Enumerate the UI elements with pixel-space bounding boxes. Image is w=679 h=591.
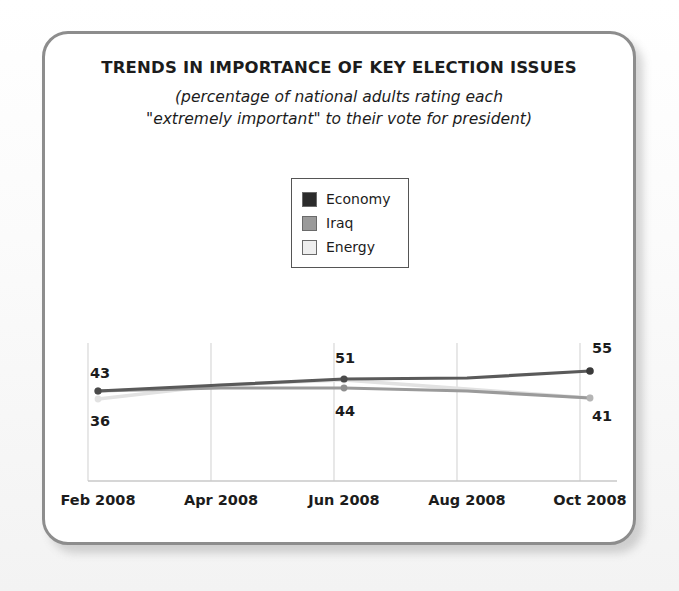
legend-item-energy: Energy xyxy=(302,235,398,259)
value-label-economy-feb: 43 xyxy=(90,365,110,381)
series-line-energy xyxy=(95,377,594,403)
series-line-economy xyxy=(94,367,593,394)
value-label-iraq-oct: 41 xyxy=(592,408,612,424)
legend-label-economy: Economy xyxy=(326,191,390,207)
page-title: TRENDS IN IMPORTANCE OF KEY ELECTION ISS… xyxy=(45,58,633,79)
legend-item-iraq: Iraq xyxy=(302,211,398,235)
value-label-economy-oct: 55 xyxy=(592,340,612,356)
gridlines xyxy=(88,343,580,481)
value-label-energy-feb: 36 xyxy=(90,413,110,429)
legend-label-energy: Energy xyxy=(326,239,375,255)
legend-item-economy: Economy xyxy=(302,187,398,211)
legend-swatch-economy xyxy=(302,192,317,207)
chart-page: TRENDS IN IMPORTANCE OF KEY ELECTION ISS… xyxy=(0,0,679,591)
value-label-iraq-jun: 44 xyxy=(335,403,355,419)
title-block: TRENDS IN IMPORTANCE OF KEY ELECTION ISS… xyxy=(45,58,633,131)
legend-label-iraq: Iraq xyxy=(326,215,353,231)
x-tick-label-jun: Jun 2008 xyxy=(287,492,401,508)
legend-swatch-energy xyxy=(302,240,317,255)
x-tick-label-apr: Apr 2008 xyxy=(164,492,278,508)
legend-swatch-iraq xyxy=(302,216,317,231)
chart-card: TRENDS IN IMPORTANCE OF KEY ELECTION ISS… xyxy=(42,31,636,545)
x-tick-label-aug: Aug 2008 xyxy=(410,492,524,508)
chart-legend: Economy Iraq Energy xyxy=(291,178,409,268)
value-label-energy-jun: 51 xyxy=(335,350,355,366)
series-line-iraq xyxy=(95,385,594,402)
x-tick-label-oct: Oct 2008 xyxy=(533,492,647,508)
chart-subtitle-line-2: "extremely important" to their vote for … xyxy=(45,108,633,130)
chart-subtitle-line-1: (percentage of national adults rating ea… xyxy=(45,86,633,108)
x-tick-label-feb: Feb 2008 xyxy=(41,492,155,508)
